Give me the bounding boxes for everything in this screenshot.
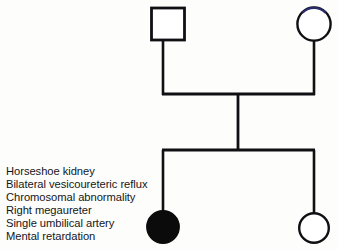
finding-item: Mental retardation (6, 230, 156, 243)
symbol-unaffected-daughter-circle (299, 213, 329, 243)
finding-item: Horseshoe kidney (6, 165, 156, 178)
symbol-father-square (152, 8, 185, 40)
clinical-findings-list: Horseshoe kidney Bilateral vesicoureteri… (6, 165, 156, 244)
finding-item: Single umbilical artery (6, 217, 156, 230)
finding-item: Chromosomal abnormality (6, 191, 156, 204)
pedigree-figure: Horseshoe kidney Bilateral vesicoureteri… (0, 0, 338, 250)
finding-item: Bilateral vesicoureteric reflux (6, 178, 156, 191)
finding-item: Right megaureter (6, 204, 156, 217)
